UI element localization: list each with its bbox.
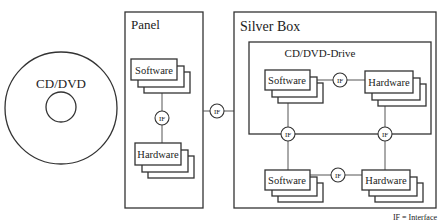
drive-title: CD/DVD-Drive bbox=[285, 47, 356, 59]
drive-interface-label: IF bbox=[337, 77, 343, 85]
panel-hardware-stack: Hardware bbox=[135, 143, 194, 178]
panel-interface-label: IF bbox=[159, 115, 165, 123]
link-interface-label: IF bbox=[214, 108, 220, 116]
box-hardware-label: Hardware bbox=[365, 175, 407, 186]
disc-label: CD/DVD bbox=[36, 76, 86, 91]
drive-software-stack: Software bbox=[265, 70, 323, 103]
left-interface-label: IF bbox=[285, 131, 291, 139]
panel-hardware-label: Hardware bbox=[137, 149, 179, 160]
disc-outer-circle bbox=[5, 52, 117, 164]
disc-hole-circle bbox=[46, 92, 76, 122]
right-interface-node: IF bbox=[378, 127, 392, 141]
system-diagram: CD/DVD Panel Software IF Hardware bbox=[0, 0, 440, 224]
box-interface-node: IF bbox=[331, 168, 345, 182]
silver-box: Silver Box CD/DVD-Drive Software IF bbox=[234, 12, 436, 208]
box-hardware-stack: Hardware bbox=[362, 170, 423, 202]
panel-interface-node: IF bbox=[155, 111, 169, 125]
panel-box: Panel Software IF Hardware bbox=[125, 12, 203, 208]
box-software-label: Software bbox=[268, 175, 306, 186]
drive-software-label: Software bbox=[268, 75, 306, 86]
left-interface-node: IF bbox=[281, 127, 295, 141]
panel-software-label: Software bbox=[135, 65, 173, 76]
right-interface-label: IF bbox=[382, 131, 388, 139]
legend-text: IF = Interface bbox=[393, 213, 437, 222]
drive-interface-node: IF bbox=[333, 73, 347, 87]
drive-hardware-label: Hardware bbox=[368, 77, 410, 88]
box-interface-label: IF bbox=[335, 172, 341, 180]
cd-dvd-disc: CD/DVD bbox=[5, 52, 117, 164]
panel-silverbox-link: IF bbox=[203, 104, 234, 118]
panel-title: Panel bbox=[131, 17, 160, 32]
silver-box-title: Silver Box bbox=[240, 19, 300, 34]
panel-software-stack: Software bbox=[131, 59, 190, 93]
drive-hardware-stack: Hardware bbox=[365, 71, 426, 106]
